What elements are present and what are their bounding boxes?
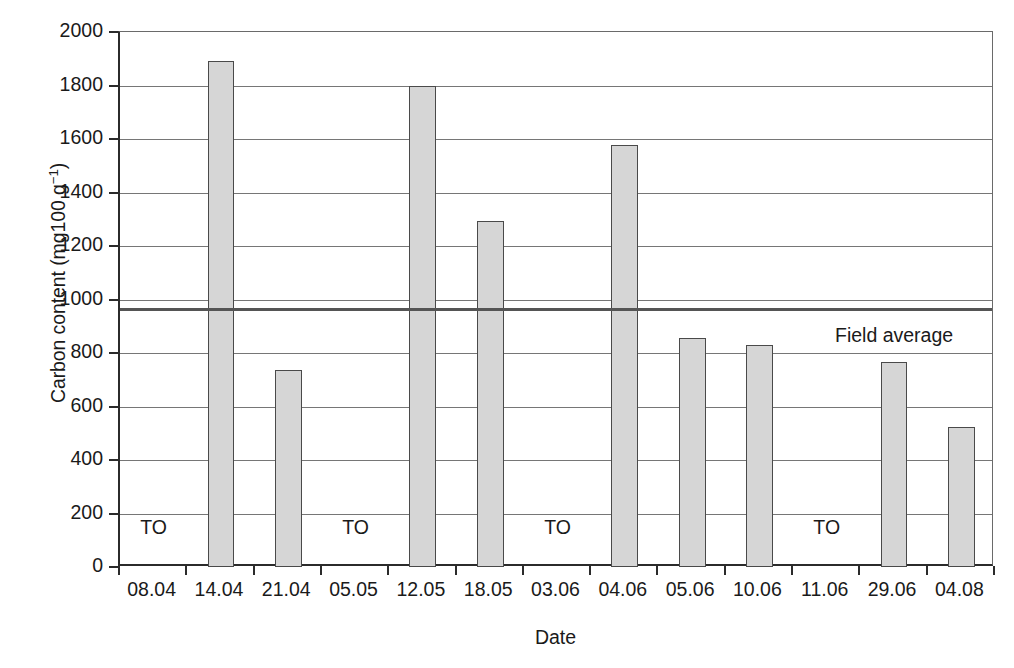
gridline bbox=[120, 300, 992, 301]
bar bbox=[409, 86, 436, 568]
gridline bbox=[120, 246, 992, 247]
x-axis-tick-label: 10.06 bbox=[733, 578, 782, 601]
gridline bbox=[120, 460, 992, 461]
y-axis-tick bbox=[109, 192, 118, 194]
x-axis-tick-label: 12.05 bbox=[396, 578, 445, 601]
x-axis-tick bbox=[858, 566, 860, 575]
x-axis-tick bbox=[589, 566, 591, 575]
y-axis-tick bbox=[109, 299, 118, 301]
treatment-marker-label: TO bbox=[813, 516, 840, 539]
y-axis-tick-label: 400 bbox=[21, 449, 103, 469]
bar bbox=[611, 145, 638, 567]
y-axis-tick bbox=[109, 138, 118, 140]
x-axis-tick bbox=[993, 566, 995, 575]
y-axis-tick bbox=[109, 85, 118, 87]
x-axis-tick bbox=[387, 566, 389, 575]
x-axis-tick-label: 21.04 bbox=[262, 578, 311, 601]
y-axis-tick-label: 0 bbox=[21, 556, 103, 576]
gridline bbox=[120, 86, 992, 87]
x-axis-tick-label: 04.06 bbox=[598, 578, 647, 601]
field-average-line bbox=[120, 308, 992, 311]
y-axis-tick-label: 2000 bbox=[21, 21, 103, 41]
y-axis-tick bbox=[109, 31, 118, 33]
y-axis-tick-label: 800 bbox=[21, 342, 103, 362]
gridline bbox=[120, 407, 992, 408]
x-axis-tick-label: 08.04 bbox=[127, 578, 176, 601]
x-axis-tick bbox=[118, 566, 120, 575]
carbon-content-bar-chart: Carbon content (mg100 g−1) Date Field av… bbox=[0, 0, 1014, 668]
x-axis-tick-label: 04.08 bbox=[935, 578, 984, 601]
x-axis-title: Date bbox=[118, 626, 993, 649]
bar bbox=[679, 338, 706, 567]
x-axis-tick bbox=[253, 566, 255, 575]
treatment-marker-label: TO bbox=[342, 516, 369, 539]
gridline bbox=[120, 193, 992, 194]
bar bbox=[948, 427, 975, 567]
bar bbox=[881, 362, 908, 567]
y-axis-tick-label: 1000 bbox=[21, 289, 103, 309]
x-axis-tick bbox=[320, 566, 322, 575]
x-axis-tick-label: 05.06 bbox=[666, 578, 715, 601]
x-axis-tick bbox=[791, 566, 793, 575]
x-axis-tick-label: 14.04 bbox=[195, 578, 244, 601]
x-axis-tick bbox=[185, 566, 187, 575]
bar bbox=[746, 345, 773, 567]
x-axis-tick-label: 05.05 bbox=[329, 578, 378, 601]
bar bbox=[275, 370, 302, 567]
field-average-label: Field average bbox=[835, 324, 953, 347]
x-axis-tick bbox=[926, 566, 928, 575]
treatment-marker-label: TO bbox=[140, 516, 167, 539]
x-axis-tick-label: 03.06 bbox=[531, 578, 580, 601]
y-axis-tick-label: 1400 bbox=[21, 182, 103, 202]
y-axis-tick-label: 600 bbox=[21, 396, 103, 416]
y-axis-tick bbox=[109, 406, 118, 408]
y-axis-tick bbox=[109, 513, 118, 515]
y-axis-tick bbox=[109, 566, 118, 568]
y-axis-tick bbox=[109, 245, 118, 247]
x-axis-tick-label: 29.06 bbox=[868, 578, 917, 601]
x-axis-tick-label: 11.06 bbox=[801, 578, 848, 601]
plot-area: Field averageTOTOTOTO bbox=[118, 31, 993, 566]
y-axis-tick bbox=[109, 352, 118, 354]
x-axis-tick bbox=[522, 566, 524, 575]
x-axis-tick bbox=[656, 566, 658, 575]
y-axis-tick-label: 200 bbox=[21, 503, 103, 523]
x-axis-tick bbox=[455, 566, 457, 575]
x-axis-tick-label: 18.05 bbox=[464, 578, 513, 601]
treatment-marker-label: TO bbox=[544, 516, 571, 539]
bar bbox=[208, 61, 235, 567]
gridline bbox=[120, 139, 992, 140]
y-axis-tick-label: 1200 bbox=[21, 235, 103, 255]
bar bbox=[477, 221, 504, 567]
gridline bbox=[120, 353, 992, 354]
y-axis-tick-label: 1600 bbox=[21, 128, 103, 148]
y-axis-tick bbox=[109, 459, 118, 461]
y-axis-tick-label: 1800 bbox=[21, 75, 103, 95]
x-axis-tick bbox=[724, 566, 726, 575]
gridline bbox=[120, 514, 992, 515]
